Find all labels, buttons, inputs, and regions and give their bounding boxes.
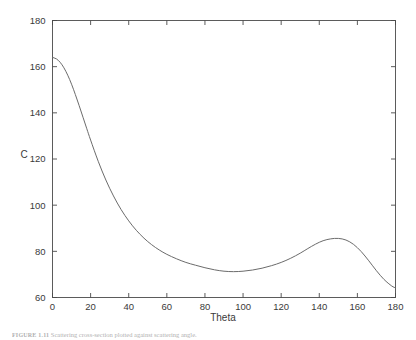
chart-plot-area: 6080100120140160180 02040608010012014016… xyxy=(0,0,416,330)
y-tick-label: 160 xyxy=(30,61,46,72)
figure-caption-text: Scattering cross-section plotted against… xyxy=(51,331,197,338)
x-tick-label: 40 xyxy=(123,301,134,312)
y-tick-label: 120 xyxy=(30,153,46,164)
figure-caption-label: FIGURE 1.11 xyxy=(12,332,49,338)
y-axis-title: C xyxy=(20,149,27,160)
y-tick-label: 60 xyxy=(35,292,46,303)
figure-root: 6080100120140160180 02040608010012014016… xyxy=(0,0,416,340)
y-tick-label: 140 xyxy=(30,107,46,118)
x-tick-label: 60 xyxy=(162,301,173,312)
x-tick-label: 0 xyxy=(50,301,55,312)
x-tick-label: 100 xyxy=(235,301,251,312)
x-tick-label: 140 xyxy=(311,301,327,312)
y-tick-label: 80 xyxy=(35,246,46,257)
y-tick-label: 180 xyxy=(30,15,46,26)
chart-background xyxy=(0,0,416,330)
x-axis-title: Theta xyxy=(210,312,236,323)
chart-svg: 6080100120140160180 02040608010012014016… xyxy=(0,0,416,330)
x-tick-label: 120 xyxy=(273,301,289,312)
x-tick-label: 180 xyxy=(388,301,404,312)
x-tick-label: 20 xyxy=(85,301,96,312)
figure-caption: FIGURE 1.11 Scattering cross-section plo… xyxy=(12,331,412,339)
x-tick-label: 80 xyxy=(200,301,211,312)
y-tick-label: 100 xyxy=(30,200,46,211)
x-tick-label: 160 xyxy=(349,301,365,312)
